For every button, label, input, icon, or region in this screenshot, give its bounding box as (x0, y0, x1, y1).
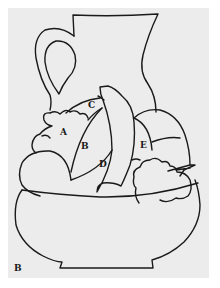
region-label-a: A (60, 128, 67, 137)
fruit-right-outline (134, 110, 190, 165)
region-label-c: C (88, 101, 95, 110)
region-label-b: B (81, 142, 89, 151)
pitcher-handle-inner (45, 41, 76, 94)
fruit-b-outline (71, 108, 112, 180)
region-label-d: D (99, 160, 107, 169)
pitcher-handle-outer (35, 28, 74, 110)
round-fruit-left (20, 151, 72, 196)
pitcher-outline (73, 14, 158, 112)
banana-outline (97, 86, 135, 192)
panel-label: B (14, 264, 22, 273)
still-life-line-drawing (0, 0, 220, 288)
fruit-e-divider (152, 138, 180, 143)
banana-stem-join (132, 159, 140, 160)
region-label-e: E (140, 141, 147, 150)
grape-detail (42, 135, 50, 138)
grapes-right-outline (133, 158, 191, 203)
bowl-rim (22, 183, 198, 197)
